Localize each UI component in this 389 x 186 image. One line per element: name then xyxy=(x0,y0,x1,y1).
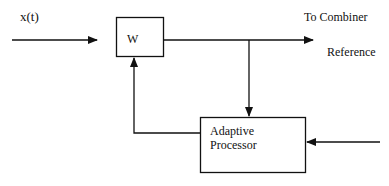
weight-block xyxy=(117,18,164,57)
weight-label: W xyxy=(127,32,138,47)
diagram-lines xyxy=(0,0,389,186)
adaptive-filter-diagram: x(t) W To Combiner Reference Adaptive Pr… xyxy=(0,0,389,186)
reference-label: Reference xyxy=(327,45,376,60)
feedback-arrow xyxy=(134,58,200,133)
processor-label-line2: Processor xyxy=(210,138,257,153)
input-label: x(t) xyxy=(20,9,39,25)
processor-label-line1: Adaptive xyxy=(210,124,254,139)
output-label: To Combiner xyxy=(304,10,368,25)
